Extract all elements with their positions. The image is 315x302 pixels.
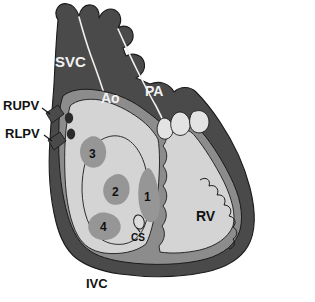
label-cs: CS [131, 232, 145, 243]
label-rlpv: RLPV [5, 126, 40, 141]
rupv-ostium-dot [65, 113, 73, 124]
label-ivc: IVC [86, 276, 108, 291]
pulmonary-valve-leaflet-right [190, 111, 209, 133]
rlpv-ostium-dot [67, 129, 75, 140]
heart-diagram-svg: SVC Ao PA RV IVC CS RUPV RLPV 3 2 1 4 [0, 0, 315, 302]
marker-label-2: 2 [112, 185, 119, 199]
marker-label-1: 1 [144, 190, 151, 204]
label-ao: Ao [101, 90, 120, 106]
label-rv: RV [196, 208, 216, 224]
label-rupv: RUPV [3, 98, 39, 113]
label-svc: SVC [55, 53, 86, 70]
anatomical-diagram-figure: SVC Ao PA RV IVC CS RUPV RLPV 3 2 1 4 [0, 0, 315, 302]
marker-label-3: 3 [89, 147, 96, 161]
label-pa: PA [145, 83, 163, 99]
pulmonary-valve-leaflet-middle [171, 112, 190, 135]
marker-label-4: 4 [100, 220, 107, 234]
